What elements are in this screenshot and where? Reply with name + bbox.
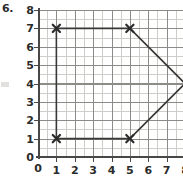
x-axis-tick-labels: 012345678 bbox=[0, 0, 183, 179]
x-tick-label-0: 0 bbox=[32, 163, 44, 174]
y-tick-mark-1 bbox=[34, 139, 39, 140]
y-tick-mark-6 bbox=[34, 47, 39, 48]
x-tick-label-6: 6 bbox=[142, 165, 154, 176]
x-tick-mark-4 bbox=[112, 157, 113, 162]
x-tick-mark-3 bbox=[93, 157, 94, 162]
x-tick-mark-5 bbox=[130, 157, 131, 162]
y-tick-mark-3 bbox=[34, 102, 39, 103]
x-tick-mark-2 bbox=[75, 157, 76, 162]
x-tick-label-3: 3 bbox=[87, 165, 99, 176]
y-tick-mark-4 bbox=[34, 84, 39, 85]
x-tick-label-4: 4 bbox=[106, 165, 118, 176]
y-tick-mark-2 bbox=[34, 120, 39, 121]
x-tick-mark-7 bbox=[167, 157, 168, 162]
worksheet-figure: 6. 012345678 012345678 bbox=[0, 0, 183, 179]
x-tick-mark-1 bbox=[56, 157, 57, 162]
x-tick-label-5: 5 bbox=[124, 165, 136, 176]
x-tick-label-2: 2 bbox=[69, 165, 81, 176]
y-tick-mark-8 bbox=[34, 10, 39, 11]
x-tick-mark-6 bbox=[148, 157, 149, 162]
x-tick-label-7: 7 bbox=[161, 165, 173, 176]
y-tick-mark-5 bbox=[34, 65, 39, 66]
y-tick-mark-7 bbox=[34, 28, 39, 29]
x-tick-label-8: 8 bbox=[179, 165, 183, 176]
x-tick-label-1: 1 bbox=[50, 165, 62, 176]
